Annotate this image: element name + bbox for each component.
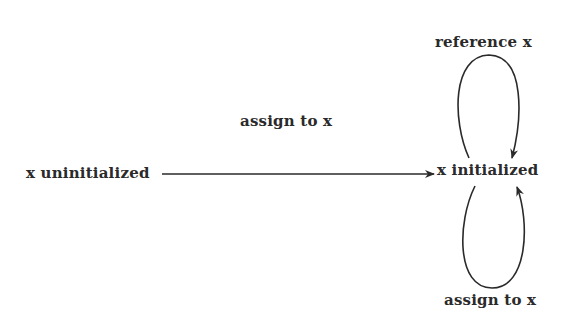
transition-label-assign: assign to x bbox=[240, 112, 332, 130]
loop-label-reference: reference x bbox=[435, 33, 532, 51]
loop-label-assign: assign to x bbox=[444, 291, 536, 309]
state-initialized: x initialized bbox=[437, 161, 538, 179]
state-diagram: x uninitialized x initialized assign to … bbox=[0, 0, 574, 328]
self-loop-assign bbox=[463, 186, 525, 288]
self-loop-reference bbox=[458, 55, 519, 158]
state-uninitialized: x uninitialized bbox=[26, 164, 150, 182]
